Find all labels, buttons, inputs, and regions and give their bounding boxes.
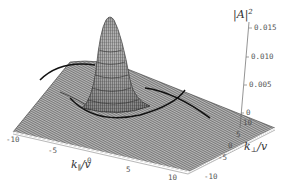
z-axis-label: |A|2 [233,8,253,22]
z-axis: 0.015 0.010 0.005 0 |A|2 [233,8,277,128]
y-tick-0: 0 [228,141,233,150]
z-tick-0.005: 0.005 [249,80,272,89]
x-tick-neg10: -10 [6,135,20,144]
z-tick-0.010: 0.010 [251,52,274,61]
y-tick-10: 10 [243,118,253,127]
y-axis-label: k⊥/v [244,140,268,154]
x-axis-label: k∥/v [71,158,92,172]
x-tick-neg5: -5 [48,146,57,155]
x-tick-10: 10 [168,173,178,182]
y-tick-5: 5 [236,130,241,139]
z-tick-0: 0 [246,108,251,117]
surface-base [13,61,275,174]
x-tick-5: 5 [126,165,131,174]
z-tick-0.015: 0.015 [254,23,277,32]
y-tick-neg10: -10 [204,172,218,181]
y-tick-neg5: -5 [218,153,227,162]
surface-plot: 0.015 0.010 0.005 0 |A|2 -10 -5 0 5 10 k… [0,0,284,187]
